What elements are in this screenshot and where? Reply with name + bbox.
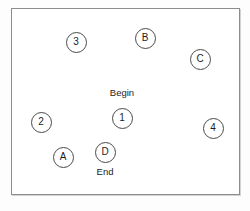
caption-begin: Begin [110, 88, 134, 98]
caption-end: End [97, 167, 114, 177]
node-4[interactable]: 4 [203, 118, 224, 139]
node-2[interactable]: 2 [31, 112, 52, 133]
node-label: B [142, 33, 149, 43]
node-c[interactable]: C [190, 49, 211, 70]
node-label: C [196, 54, 203, 64]
diagram-canvas: 3BC214AD BeginEnd [0, 0, 250, 211]
node-label: 3 [73, 37, 79, 47]
node-label: A [60, 152, 67, 162]
node-label: 1 [119, 113, 125, 123]
node-label: 4 [210, 123, 216, 133]
node-1[interactable]: 1 [112, 108, 133, 129]
node-label: D [101, 147, 108, 157]
diagram-border [11, 8, 240, 195]
node-d[interactable]: D [95, 142, 116, 163]
node-a[interactable]: A [53, 147, 74, 168]
node-b[interactable]: B [135, 28, 156, 49]
node-label: 2 [38, 117, 44, 127]
node-3[interactable]: 3 [66, 32, 87, 53]
